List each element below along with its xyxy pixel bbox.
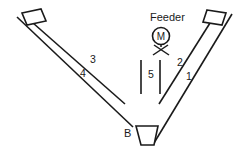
left-arm-inner-line <box>33 23 125 104</box>
arm-right-inner-label: 2 <box>177 56 183 68</box>
arm-left-inner-label: 3 <box>90 53 96 65</box>
right-arm-flag-icon <box>203 10 226 25</box>
left-arm-outer-line <box>17 17 133 127</box>
feeder-conveyor-diagram: Feeder M 3 4 2 1 5 B <box>0 0 248 149</box>
bin-trapezoid-icon <box>136 126 158 145</box>
center-chute-label: 5 <box>148 68 154 80</box>
left-arm-flag-icon <box>22 9 46 25</box>
bin-label: B <box>124 127 131 139</box>
feeder-label: Feeder <box>150 11 185 23</box>
bin-group <box>136 126 158 145</box>
arm-right-outer-label: 1 <box>186 70 192 82</box>
left-arm-group <box>17 9 133 127</box>
arm-left-outer-label: 4 <box>80 67 86 79</box>
diagram-canvas: Feeder M 3 4 2 1 5 B <box>0 0 248 149</box>
motor-label: M <box>157 31 165 42</box>
